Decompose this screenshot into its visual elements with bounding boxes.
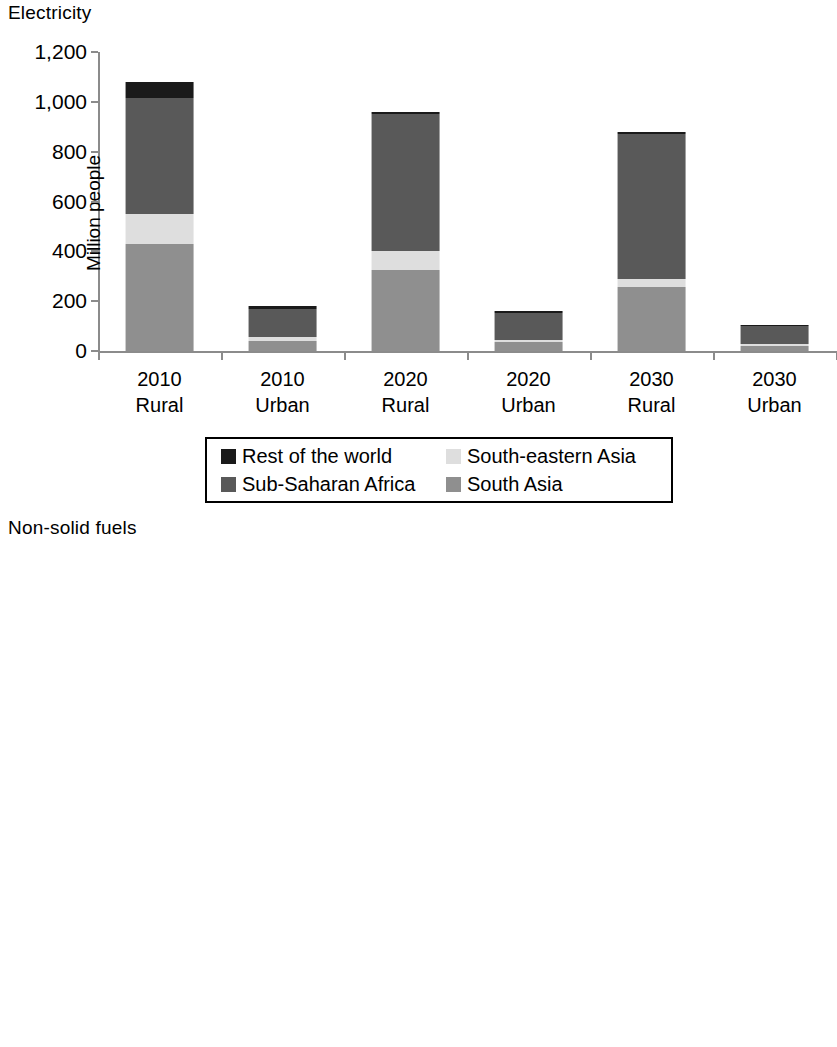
x-axis-tick <box>590 353 592 360</box>
y-axis-tick <box>91 350 98 352</box>
y-axis-tick <box>91 51 98 53</box>
x-axis-tick <box>98 353 100 360</box>
legend-item[interactable]: Sub-Saharan Africa <box>221 470 446 498</box>
stacked-bar <box>371 112 440 351</box>
bar-segment-south-asia <box>740 346 809 351</box>
x-axis-label-line: Urban <box>467 392 590 418</box>
stacked-bar <box>125 82 194 351</box>
y-axis-tick-label: 1,200 <box>34 40 87 64</box>
plot-area-electricity: Million people 2010Rural2010Urban2020Rur… <box>98 52 836 351</box>
bar-segment-south-eastern-asia <box>125 214 194 244</box>
bar-segment-rest-of-the-world <box>125 82 194 98</box>
y-axis-tick <box>91 201 98 203</box>
x-axis-label-line: Rural <box>98 392 221 418</box>
y-axis-tick <box>91 250 98 252</box>
x-axis-label-line: Urban <box>713 392 836 418</box>
legend-swatch-icon <box>221 477 236 492</box>
legend-item[interactable]: South Asia <box>446 470 671 498</box>
stacked-bar <box>494 311 563 351</box>
bar-segment-south-asia <box>617 287 686 351</box>
legend-label: South-eastern Asia <box>467 446 636 466</box>
legend-electricity: Rest of the worldSouth-eastern AsiaSub-S… <box>205 437 673 503</box>
y-axis-tick <box>91 101 98 103</box>
y-axis-tick-label: 600 <box>52 190 87 214</box>
chart-panel-electricity: Electricity Million people 2010Rural2010… <box>0 0 837 510</box>
y-axis-tick-label: 1,000 <box>34 90 87 114</box>
bar-segment-south-asia <box>125 244 194 351</box>
bar-segment-sub-saharan-africa <box>494 313 563 340</box>
x-axis-category-label: 2010Urban <box>221 366 344 419</box>
bar-segment-south-asia <box>371 270 440 351</box>
bar-segment-sub-saharan-africa <box>371 114 440 251</box>
chart-title-non-solid-fuels: Non-solid fuels <box>8 517 137 539</box>
legend-swatch-icon <box>446 449 461 464</box>
bar-group: 2030Rural <box>590 52 713 351</box>
x-axis-label-line: 2010 <box>98 366 221 392</box>
stacked-bar <box>617 132 686 351</box>
legend-label: Sub-Saharan Africa <box>242 474 415 494</box>
x-axis-tick <box>221 353 223 360</box>
x-axis-category-label: 2020Urban <box>467 366 590 419</box>
bar-series-electricity: 2010Rural2010Urban2020Rural2020Urban2030… <box>98 52 836 351</box>
x-axis-tick <box>713 353 715 360</box>
bar-segment-south-eastern-asia <box>371 251 440 270</box>
legend-item[interactable]: Rest of the world <box>221 442 446 470</box>
x-axis-category-label: 2030Urban <box>713 366 836 419</box>
x-axis-label-line: Rural <box>590 392 713 418</box>
y-axis-tick-label: 200 <box>52 289 87 313</box>
x-axis-tick <box>467 353 469 360</box>
bar-segment-south-asia <box>494 342 563 351</box>
bar-segment-sub-saharan-africa <box>617 134 686 279</box>
bar-segment-south-asia <box>248 341 317 351</box>
legend-label: South Asia <box>467 474 563 494</box>
x-axis-label-line: 2020 <box>467 366 590 392</box>
x-axis-label-line: Urban <box>221 392 344 418</box>
bar-group: 2010Urban <box>221 52 344 351</box>
bar-group: 2020Urban <box>467 52 590 351</box>
bar-segment-sub-saharan-africa <box>125 98 194 214</box>
y-axis-tick <box>91 151 98 153</box>
x-axis-label-line: 2030 <box>713 366 836 392</box>
legend-item[interactable]: South-eastern Asia <box>446 442 671 470</box>
y-axis-tick-label: 400 <box>52 239 87 263</box>
y-axis-tick-label: 800 <box>52 140 87 164</box>
bar-segment-south-eastern-asia <box>617 279 686 288</box>
bar-group: 2020Rural <box>344 52 467 351</box>
legend-label: Rest of the world <box>242 446 392 466</box>
stacked-bar <box>740 325 809 351</box>
x-axis-label-line: Rural <box>344 392 467 418</box>
y-axis-tick <box>91 300 98 302</box>
chart-panel-non-solid-fuels: Non-solid fuels Million people 2010Rural… <box>0 515 837 1047</box>
bar-group: 2030Urban <box>713 52 836 351</box>
y-axis-tick-label: 0 <box>75 339 87 363</box>
stacked-bar <box>248 306 317 351</box>
x-axis-label-line: 2010 <box>221 366 344 392</box>
legend-swatch-icon <box>446 477 461 492</box>
x-axis-label-line: 2030 <box>590 366 713 392</box>
x-axis-label-line: 2020 <box>344 366 467 392</box>
x-axis-category-label: 2020Rural <box>344 366 467 419</box>
bar-group: 2010Rural <box>98 52 221 351</box>
bar-segment-sub-saharan-africa <box>740 326 809 343</box>
x-axis-tick <box>344 353 346 360</box>
x-axis-category-label: 2030Rural <box>590 366 713 419</box>
chart-title-electricity: Electricity <box>8 2 92 24</box>
x-axis-category-label: 2010Rural <box>98 366 221 419</box>
bar-segment-sub-saharan-africa <box>248 309 317 338</box>
legend-swatch-icon <box>221 449 236 464</box>
